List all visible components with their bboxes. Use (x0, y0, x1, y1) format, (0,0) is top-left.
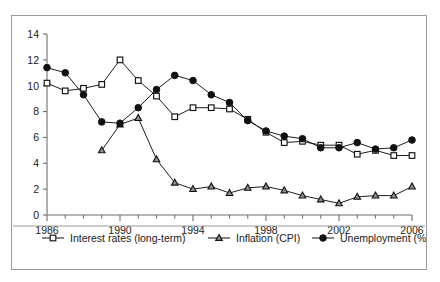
legend-item-2[interactable]: Inflation (CPI) (208, 232, 300, 244)
y-tick-label: 8 (33, 105, 39, 117)
y-tick-label: 12 (27, 54, 39, 66)
legend-label: Inflation (CPI) (236, 232, 300, 244)
figure-container: Figure 10.1 Inflation, interest rates an… (0, 0, 440, 282)
y-tick-label: 6 (33, 131, 39, 143)
series-2 (98, 114, 415, 205)
y-tick-label: 4 (33, 157, 39, 169)
line-chart: 02468101214198619901994199820022006Inter… (12, 16, 426, 269)
y-tick-label: 0 (33, 209, 39, 221)
y-tick-label: 2 (33, 183, 39, 195)
legend-label: Unemployment (%) (340, 232, 426, 244)
figure-caption-strip: Figure 10.1 Inflation, interest rates an… (0, 0, 440, 12)
y-tick-label: 10 (27, 80, 39, 92)
legend-label: Interest rates (long-term) (70, 232, 186, 244)
chart-frame: 02468101214198619901994199820022006Inter… (11, 15, 427, 270)
legend-item-1[interactable]: Interest rates (long-term) (42, 232, 186, 244)
y-tick-label: 14 (27, 28, 39, 40)
